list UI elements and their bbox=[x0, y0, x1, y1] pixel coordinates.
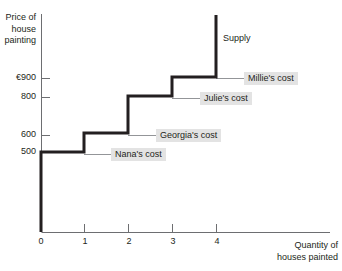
y-axis-title: Price of house painting bbox=[0, 12, 36, 47]
callout-georgia-cost: Georgia's cost bbox=[156, 129, 221, 142]
callout-julie-cost: Julie's cost bbox=[200, 92, 252, 105]
x-tick-label-3: 3 bbox=[165, 236, 181, 246]
supply-curve-label: Supply bbox=[223, 33, 251, 43]
x-tick-label-2: 2 bbox=[121, 236, 137, 246]
supply-curve-chart: Price of house painting Quantity of hous… bbox=[0, 0, 342, 271]
x-axis-title: Quantity of houses painted bbox=[238, 240, 338, 263]
y-tick-label-600: 600 bbox=[2, 129, 36, 139]
y-tick-label-800: 800 bbox=[2, 91, 36, 101]
callout-nana-cost: Nana's cost bbox=[111, 148, 166, 161]
x-tick-label-4: 4 bbox=[209, 236, 225, 246]
y-tick-label-900: €900 bbox=[2, 72, 36, 82]
x-tick-label-0: 0 bbox=[33, 236, 49, 246]
y-tick-label-500: 500 bbox=[2, 146, 36, 156]
x-tick-label-1: 1 bbox=[77, 236, 93, 246]
callout-millie-cost: Millie's cost bbox=[244, 72, 298, 85]
supply-step-curve bbox=[41, 15, 216, 232]
